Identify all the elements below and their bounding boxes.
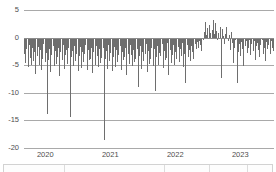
bottom-panel-edge[interactable] [3,164,273,172]
x-tick-label: 2022 [167,150,184,159]
bar [220,27,221,38]
cell-separator [164,165,165,172]
bar-series [24,10,274,148]
x-tick-label: 2021 [102,150,119,159]
x-tick-label: 2020 [37,150,54,159]
y-tick-label: -15 [8,116,19,124]
gridline [24,148,274,149]
zero-baseline [24,38,274,39]
bar [226,27,227,37]
bar [216,31,217,38]
x-axis-labels: 2020202120222023 [24,150,274,162]
x-tick-label: 2023 [232,150,249,159]
cell-separator [247,165,248,172]
bar [207,28,208,38]
y-axis-labels: 50-5-10-15-20 [0,10,22,148]
cell-separator [209,165,210,172]
bar [230,38,231,51]
y-tick-label: -10 [8,89,19,97]
bar [273,38,274,51]
plot-area [24,10,274,148]
y-tick-label: 0 [15,34,19,42]
y-tick-label: 5 [15,6,19,14]
y-tick-label: -20 [8,144,19,152]
bar-chart: 50-5-10-15-20 2020202120222023 [0,0,276,172]
bar [221,38,222,79]
y-tick-label: -5 [12,61,19,69]
cell-separator [64,165,65,172]
